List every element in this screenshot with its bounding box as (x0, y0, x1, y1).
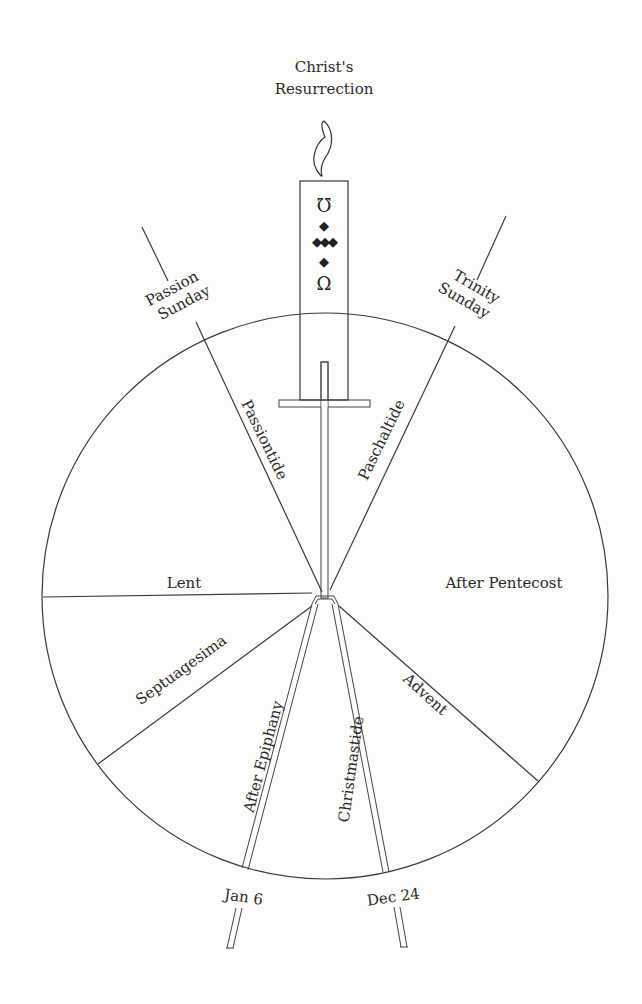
passion-sunday-outer-line (142, 227, 168, 281)
trinity-sunday-ray (330, 326, 455, 590)
alpha-symbol: Ω (317, 194, 332, 215)
title-line-2: Resurrection (275, 80, 374, 98)
liturgical-year-diagram: Ω ◆ ◆◆◆ ◆ Ω Christ's Resurrection Passio… (0, 0, 642, 1004)
omega-symbol: Ω (317, 273, 332, 294)
diamond-row: ◆◆◆ (312, 234, 338, 249)
cross (279, 362, 370, 598)
date-dec24: Dec 24 (366, 884, 421, 909)
season-advent: Advent (399, 669, 452, 719)
plinth-inner (315, 599, 335, 604)
dec24-tail-b (400, 907, 407, 947)
trinity-sunday-outer-line (477, 216, 506, 280)
diamond-bottom: ◆ (319, 254, 329, 269)
season-after-epiphany: After Epiphany (239, 698, 286, 815)
dec24-tail-a (394, 907, 401, 947)
season-septuagesima: Septuagesima (132, 631, 230, 709)
season-after-pentecost: After Pentecost (445, 574, 563, 592)
flame-icon (314, 121, 332, 176)
date-jan6: Jan 6 (221, 885, 264, 909)
season-christmastide: Christmastide (335, 715, 368, 824)
title-line-1: Christ's (295, 58, 354, 76)
season-lent: Lent (167, 574, 202, 592)
lent-divider (43, 593, 312, 597)
passion-sunday-ray (196, 322, 322, 592)
diamond-top: ◆ (319, 218, 329, 233)
septuagesima-divider (98, 606, 312, 764)
